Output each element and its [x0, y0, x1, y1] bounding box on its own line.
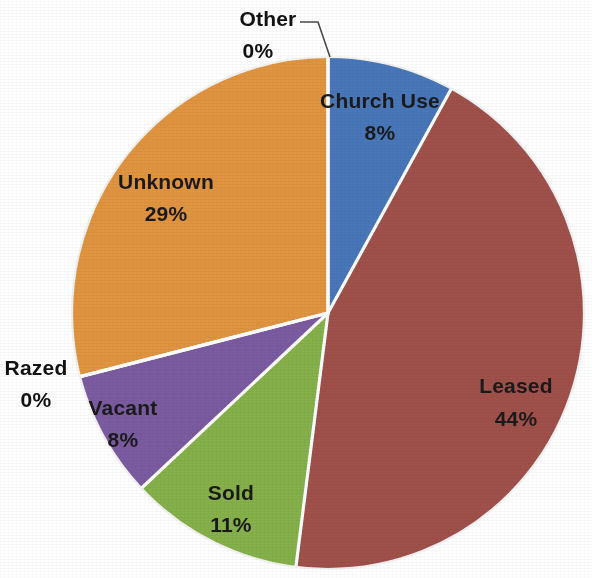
pie-chart: Church Use8%Leased44%Sold11%Vacant8%Raze…: [0, 0, 592, 578]
slice-label-leased: Leased: [479, 374, 553, 397]
slice-label-vacant: Vacant: [89, 396, 158, 419]
slice-value-razed: 0%: [21, 388, 52, 411]
slice-value-unknown: 29%: [145, 202, 188, 225]
slice-value-vacant: 8%: [108, 428, 139, 451]
slice-label-church-use: Church Use: [320, 89, 440, 112]
slice-label-unknown: Unknown: [118, 170, 214, 193]
other-leader-line: [300, 22, 330, 57]
slice-label-razed: Razed: [5, 356, 68, 379]
slice-label-other: Other: [239, 7, 296, 30]
slice-value-sold: 11%: [210, 513, 252, 536]
slice-value-other: 0%: [243, 39, 274, 62]
slice-value-church-use: 8%: [365, 121, 396, 144]
slice-label-sold: Sold: [208, 481, 254, 504]
pie-chart-canvas: Church Use8%Leased44%Sold11%Vacant8%Raze…: [0, 0, 592, 578]
slice-value-leased: 44%: [495, 407, 538, 430]
